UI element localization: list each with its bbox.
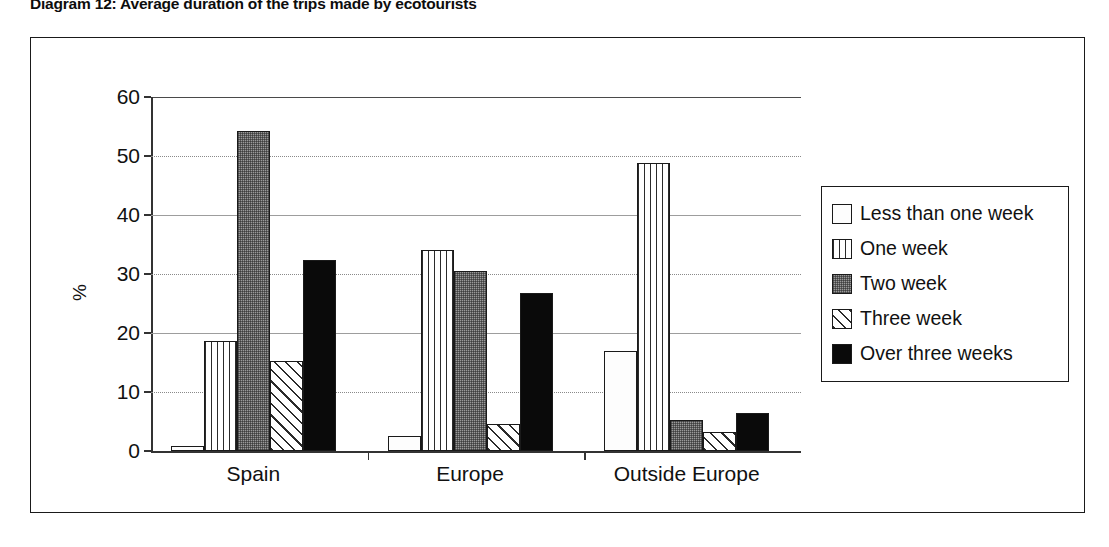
y-axis-title: % [70, 284, 89, 301]
y-axis-label-40: 40 [117, 204, 140, 225]
y-tick-60 [144, 96, 151, 98]
figure-frame: % 0102030405060 SpainEuropeOutside Europ… [30, 37, 1085, 513]
legend-swatch-icon-none [832, 204, 852, 224]
bar-spain-less-than-one-week [171, 446, 204, 451]
legend-label: Three week [860, 309, 962, 329]
category-separator-1 [368, 451, 370, 460]
bar-outside-europe-three-week [703, 432, 736, 451]
y-axis-label-60: 60 [117, 86, 140, 107]
y-tick-0 [144, 450, 151, 452]
legend-swatch-icon-solid [832, 344, 852, 364]
legend-item-over-three-weeks[interactable]: Over three weeks [832, 336, 1056, 371]
y-axis-label-50: 50 [117, 145, 140, 166]
y-tick-40 [144, 214, 151, 216]
y-tick-50 [144, 155, 151, 157]
plot-area: 0102030405060 SpainEuropeOutside Europe [151, 97, 801, 451]
legend: Less than one weekOne weekTwo weekThree … [821, 186, 1069, 382]
category-separator-2 [584, 451, 586, 460]
bar-europe-two-week [454, 271, 487, 451]
bar-spain-three-week [270, 361, 303, 451]
bar-outside-europe-two-week [670, 420, 703, 451]
x-axis-label-europe: Europe [436, 463, 504, 484]
bar-europe-over-three-weeks [520, 293, 553, 451]
legend-swatch-icon-vert [832, 239, 852, 259]
bar-outside-europe-one-week [637, 163, 670, 451]
bar-spain-over-three-weeks [303, 260, 336, 451]
legend-swatch-icon-gray [832, 274, 852, 294]
plot-top-border [151, 97, 801, 98]
legend-label: One week [860, 239, 948, 259]
legend-label: Over three weeks [860, 344, 1013, 364]
bar-europe-less-than-one-week [388, 436, 421, 451]
y-axis-label-30: 30 [117, 263, 140, 284]
x-axis-label-outside-europe: Outside Europe [614, 463, 760, 484]
y-tick-20 [144, 332, 151, 334]
page-title: Diagram 12: Average duration of the trip… [30, 0, 477, 13]
legend-label: Less than one week [860, 204, 1033, 224]
bar-spain-two-week [237, 131, 270, 451]
bar-outside-europe-less-than-one-week [604, 351, 637, 451]
bar-europe-one-week [421, 250, 454, 451]
y-axis-label-20: 20 [117, 322, 140, 343]
y-axis-label-0: 0 [128, 440, 140, 461]
legend-item-less-than-one-week[interactable]: Less than one week [832, 196, 1056, 231]
x-axis-label-spain: Spain [226, 463, 280, 484]
x-axis-line [151, 451, 801, 453]
legend-label: Two week [860, 274, 947, 294]
y-tick-10 [144, 391, 151, 393]
y-tick-30 [144, 273, 151, 275]
legend-item-three-week[interactable]: Three week [832, 301, 1056, 336]
bar-spain-one-week [204, 341, 237, 451]
y-axis-label-10: 10 [117, 381, 140, 402]
bar-outside-europe-over-three-weeks [736, 413, 769, 451]
legend-item-two-week[interactable]: Two week [832, 266, 1056, 301]
bar-europe-three-week [487, 424, 520, 451]
legend-swatch-icon-diag [832, 309, 852, 329]
legend-item-one-week[interactable]: One week [832, 231, 1056, 266]
